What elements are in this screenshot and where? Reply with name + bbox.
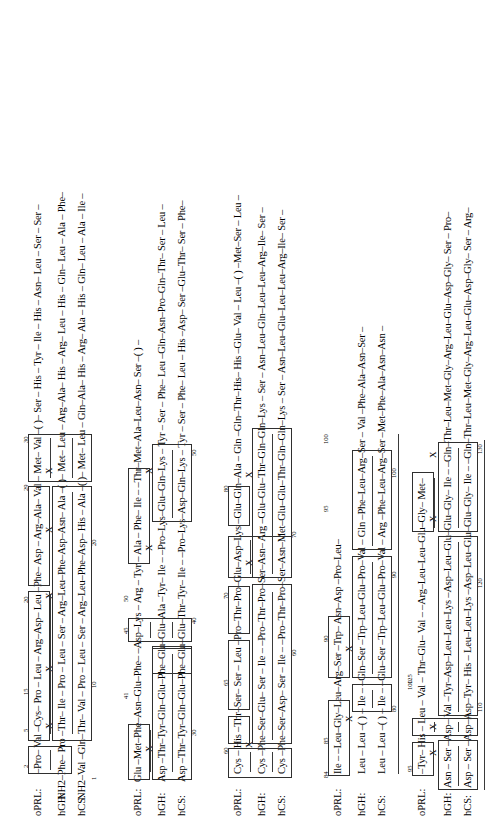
row-label-hcs: hCS: <box>276 795 287 816</box>
row-label-hcs: hCS: <box>176 795 187 816</box>
homology-box <box>128 468 150 564</box>
connector <box>172 450 173 518</box>
connector <box>458 542 459 712</box>
connector <box>250 752 251 772</box>
connector <box>458 448 459 528</box>
connector <box>72 492 73 734</box>
connector <box>272 752 273 772</box>
connector <box>272 434 273 574</box>
row-label-oprl: oPRL: <box>332 789 343 816</box>
homology-box <box>128 724 150 780</box>
row-label-oprl: oPRL: <box>416 789 427 816</box>
homology-box <box>228 716 250 744</box>
homology-box <box>228 748 292 778</box>
row-label-oprl: oPRL: <box>132 789 143 816</box>
residue-number: 100 <box>322 434 329 444</box>
homology-box <box>412 472 434 532</box>
connector <box>372 690 373 708</box>
homology-box <box>28 591 50 741</box>
connector <box>434 722 435 732</box>
row-label-hcs: hCS: <box>376 795 387 816</box>
homology-box <box>412 718 478 736</box>
connector <box>172 622 173 638</box>
row-label-hgh: hGH: <box>442 793 453 816</box>
connector <box>50 438 51 478</box>
connector <box>250 540 251 574</box>
connector <box>172 654 173 772</box>
connector <box>434 478 435 528</box>
homology-box <box>28 486 50 586</box>
baseline-rule <box>398 434 399 774</box>
homology-box <box>228 640 250 710</box>
baseline-rule <box>484 440 485 790</box>
homology-box <box>328 616 350 678</box>
row-label-hgh: hGH: <box>156 793 167 816</box>
homology-box <box>128 618 192 642</box>
homology-box <box>28 434 92 482</box>
residue-number: 95 <box>322 506 329 513</box>
identity-mark: X <box>428 452 438 459</box>
residue-number: 41 <box>122 693 129 700</box>
homology-box <box>328 700 350 776</box>
connector <box>372 456 373 546</box>
connector <box>50 594 51 734</box>
connector <box>272 592 273 740</box>
connector <box>50 750 51 770</box>
sequence-alignment-figure: 2 5 15 20 29 30 oPRL: –Pro– Val –Cys– Pr… <box>0 0 492 816</box>
connector <box>72 438 73 478</box>
connector <box>458 746 459 786</box>
homology-box <box>228 586 250 634</box>
residue-number: 50 <box>122 596 129 603</box>
homology-box <box>228 486 250 526</box>
homology-box <box>412 742 434 776</box>
residue-number: 1 <box>90 777 97 780</box>
row-label-hgh: hGH: <box>256 793 267 816</box>
row-label-oprl: oPRL: <box>232 789 243 816</box>
connector <box>458 722 459 732</box>
row-label-hgh: hGH: <box>356 793 367 816</box>
connector <box>150 730 151 772</box>
connector <box>150 622 151 638</box>
row-label-oprl: oPRL: <box>32 789 43 816</box>
residue-number: 125 <box>406 674 413 684</box>
connector <box>372 562 373 674</box>
row-label-hcs: hCS: <box>462 795 473 816</box>
